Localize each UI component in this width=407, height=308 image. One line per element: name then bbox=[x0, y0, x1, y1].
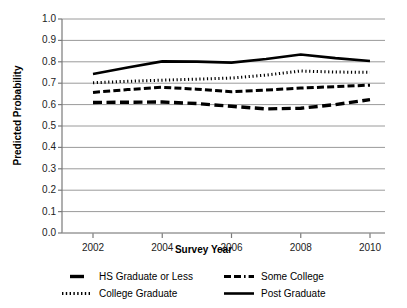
legend-label: Some College bbox=[261, 271, 324, 282]
legend-swatch-dash-dot-icon bbox=[224, 271, 254, 282]
legend-label: HS Graduate or Less bbox=[99, 271, 193, 282]
legend-entry: Some College bbox=[224, 268, 374, 285]
series-line-some-college bbox=[93, 85, 370, 92]
plot-area bbox=[0, 0, 407, 308]
series-line-college-graduate bbox=[93, 71, 370, 83]
legend-swatch-dotted-icon bbox=[62, 288, 92, 299]
legend-entry: College Graduate bbox=[62, 285, 212, 302]
x-axis-title: Survey Year bbox=[0, 244, 407, 255]
legend-label: College Graduate bbox=[99, 288, 177, 299]
chart-legend: HS Graduate or LessSome CollegeCollege G… bbox=[62, 268, 382, 302]
legend-entry: Post Graduate bbox=[224, 285, 374, 302]
legend-label: Post Graduate bbox=[261, 288, 325, 299]
chart-container: Predicted Probability 0.00.10.20.30.40.5… bbox=[0, 0, 407, 308]
legend-entry: HS Graduate or Less bbox=[62, 268, 212, 285]
legend-swatch-solid-icon bbox=[224, 288, 254, 299]
legend-swatch-thick-dash-icon bbox=[62, 271, 92, 282]
